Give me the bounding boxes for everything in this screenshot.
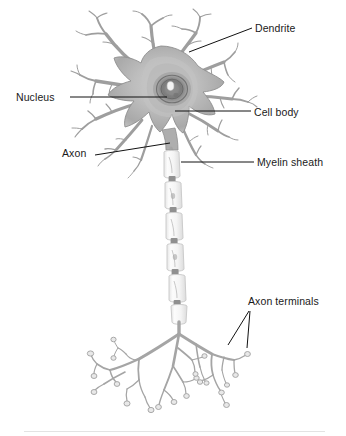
myelin-segment bbox=[164, 151, 180, 179]
myelin-segment bbox=[169, 275, 186, 303]
nucleus bbox=[153, 72, 191, 106]
label-cell-body: Cell body bbox=[254, 106, 299, 118]
neuron-diagram: Dendrite Nucleus Cell body Axon Myelin s… bbox=[0, 0, 346, 436]
myelin-segment bbox=[166, 213, 183, 241]
myelin-segment bbox=[165, 182, 182, 210]
leader-line-axon-terminals-a bbox=[228, 311, 249, 345]
neuron-illustration bbox=[0, 0, 346, 436]
label-axon-terminals: Axon terminals bbox=[248, 295, 319, 307]
cell-body-soma bbox=[108, 46, 224, 150]
bottom-divider bbox=[24, 431, 325, 432]
label-dendrite: Dendrite bbox=[255, 22, 296, 34]
label-myelin-sheath: Myelin sheath bbox=[257, 156, 323, 168]
axon-with-myelin bbox=[164, 148, 187, 324]
leader-line-axon-terminals-b bbox=[247, 311, 250, 348]
leader-line-dendrite bbox=[189, 28, 252, 52]
myelin-segment bbox=[167, 244, 184, 272]
label-axon: Axon bbox=[62, 147, 86, 159]
label-nucleus: Nucleus bbox=[16, 91, 55, 103]
